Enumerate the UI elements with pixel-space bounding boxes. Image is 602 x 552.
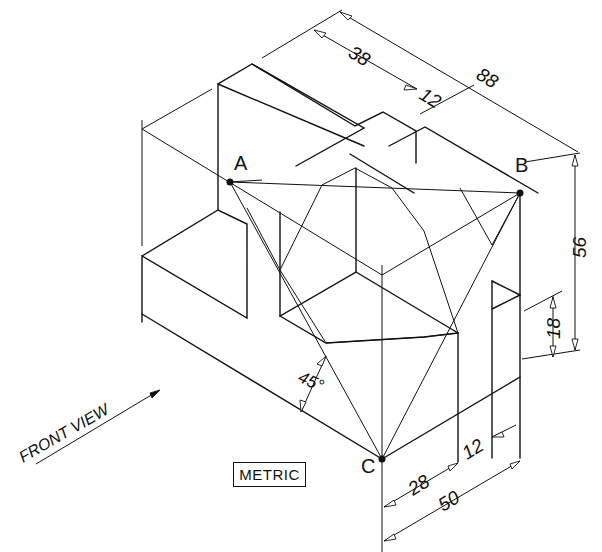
front-view-indicator: FRONT VIEW xyxy=(16,390,160,466)
dimension-lines xyxy=(262,10,580,541)
dimension-labels: 88 38 12 56 18 45° 28 12 50 xyxy=(295,41,590,515)
construction-lines xyxy=(142,89,520,552)
dim-28: 28 xyxy=(403,470,433,500)
dim-56: 56 xyxy=(569,236,590,258)
point-b-marker xyxy=(517,190,524,197)
front-view-label: FRONT VIEW xyxy=(16,400,113,466)
dim-45-angle: 45° xyxy=(295,367,327,395)
dim-88: 88 xyxy=(473,63,502,92)
metric-units-badge: METRIC xyxy=(233,462,306,487)
point-c-label: C xyxy=(361,455,375,477)
dim-12-top: 12 xyxy=(416,83,445,112)
dim-18: 18 xyxy=(543,317,564,339)
point-a-marker xyxy=(227,179,234,186)
dim-50: 50 xyxy=(434,486,463,515)
point-b-label: B xyxy=(515,154,528,176)
point-a-label: A xyxy=(234,152,248,174)
object-outline xyxy=(142,64,538,462)
dim-12-front: 12 xyxy=(458,434,487,463)
point-c-marker xyxy=(379,456,386,463)
dim-38: 38 xyxy=(345,41,374,70)
key-points: A B C xyxy=(227,152,529,477)
